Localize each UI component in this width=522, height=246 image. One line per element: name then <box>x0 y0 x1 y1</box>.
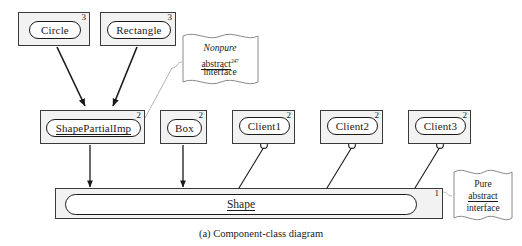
component-client2-label: Client2 <box>336 120 369 132</box>
note-nonpure-line2-superscript: 247 <box>231 58 239 64</box>
component-rectangle-label: Rectangle <box>116 24 161 36</box>
component-client2-label-pill: Client2 <box>327 117 378 135</box>
component-circle-label: Circle <box>41 24 69 36</box>
component-circle-tier: 3 <box>82 12 87 23</box>
note-pure-line1: Pure <box>452 179 514 191</box>
component-client3-label-pill: Client3 <box>415 117 466 135</box>
interface-bar-shape-label: Shape <box>227 198 255 211</box>
figure-canvas: 3 Circle 3 Rectangle 2 ShapePartialImp 2… <box>0 0 522 246</box>
component-shapepartialimp-label-pill: ShapePartialImp <box>46 119 141 137</box>
component-circle[interactable]: 3 Circle <box>18 12 90 46</box>
component-rectangle[interactable]: 3 Rectangle <box>100 12 176 46</box>
component-rectangle-label-pill: Rectangle <box>107 21 171 39</box>
note-nonpure-abstract-interface: Nonpure abstract247 interface <box>182 34 258 86</box>
component-shapepartialimp-tier: 2 <box>137 110 142 121</box>
component-shapepartialimp[interactable]: 2 ShapePartialImp <box>40 110 145 144</box>
component-box-tier: 2 <box>199 110 204 121</box>
component-shapepartialimp-label: ShapePartialImp <box>56 122 132 135</box>
component-client2[interactable]: 2 Client2 <box>320 110 383 144</box>
component-rectangle-tier: 3 <box>168 12 173 23</box>
note-nonpure-line3: interface <box>182 67 258 79</box>
component-box[interactable]: 2 Box <box>160 110 207 144</box>
connector-rectangle-to-shapepartialimp <box>113 47 137 106</box>
interface-bar-shape-capsule: Shape <box>65 194 417 215</box>
component-box-label: Box <box>175 122 194 134</box>
component-client1-label-pill: Client1 <box>239 117 290 135</box>
figure-caption: (a) Component-class diagram <box>0 228 522 239</box>
component-client1[interactable]: 2 Client1 <box>232 110 295 144</box>
component-client3-label: Client3 <box>424 120 457 132</box>
note-nonpure-line1: Nonpure <box>182 43 258 55</box>
note-pure-line2-wrap: abstract <box>452 191 514 203</box>
note-pure-line3: interface <box>452 203 514 215</box>
connector-circle-to-shapepartialimp <box>57 47 85 106</box>
component-client3[interactable]: 2 Client3 <box>408 110 471 144</box>
interface-bar-shape[interactable]: 1 Shape <box>55 188 443 219</box>
note-pure-abstract-interface: Pure abstract interface <box>452 170 514 222</box>
note-pure-line2: abstract <box>468 191 498 202</box>
component-client1-label: Client1 <box>248 120 281 132</box>
component-circle-label-pill: Circle <box>29 21 81 39</box>
interface-bar-shape-tier: 1 <box>435 188 440 199</box>
component-box-label-pill: Box <box>167 119 202 137</box>
